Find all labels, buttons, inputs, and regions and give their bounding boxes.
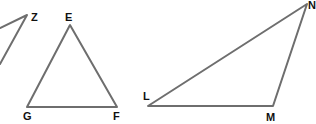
vertex-label-f: F bbox=[113, 110, 120, 122]
vertex-label-g: G bbox=[23, 110, 32, 122]
vertex-label-m: M bbox=[266, 111, 275, 123]
vertex-label-z: Z bbox=[31, 11, 38, 23]
vertex-label-l: L bbox=[143, 90, 150, 102]
triangle-lmn bbox=[148, 4, 307, 106]
triangle-egf bbox=[27, 25, 117, 107]
vertex-label-e: E bbox=[65, 11, 72, 23]
geometry-diagram: Z E G F L M N bbox=[0, 0, 316, 124]
triangles-figure: Z E G F L M N bbox=[0, 0, 316, 124]
vertex-label-n: N bbox=[308, 0, 316, 11]
partial-triangle-z bbox=[0, 15, 27, 64]
